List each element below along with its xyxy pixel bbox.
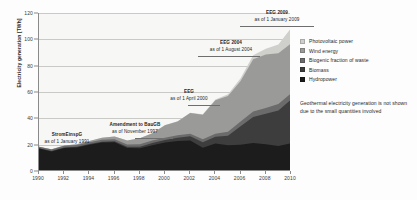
legend-swatch-icon <box>300 67 305 72</box>
annotation-leader-eeg-2000 <box>188 105 220 106</box>
x-tick-mark <box>189 171 190 174</box>
legend-swatch-icon <box>300 58 305 63</box>
legend: Photovoltaic powerWind energyBiogenic fr… <box>300 38 415 86</box>
x-tick-label: 1994 <box>83 175 95 181</box>
legend-label: Biogenic fraction of waste <box>309 57 369 63</box>
x-tick-label: 2006 <box>234 175 246 181</box>
x-tick-mark <box>63 171 64 174</box>
footnote-geothermal: Geothermal electricity generation is not… <box>300 100 416 116</box>
legend-swatch-icon <box>300 77 305 82</box>
legend-item[interactable]: Photovoltaic power <box>300 38 415 44</box>
x-tick-label: 1996 <box>108 175 120 181</box>
x-tick-label: 2008 <box>259 175 271 181</box>
legend-item[interactable]: Biogenic fraction of waste <box>300 57 415 63</box>
legend-swatch-icon <box>300 48 305 53</box>
annotation-eeg-2004: EEG 2004 as of 1 August 2004 <box>195 40 267 54</box>
legend-item[interactable]: Biomass <box>300 67 415 73</box>
legend-item[interactable]: Hydropower <box>300 76 415 82</box>
chart-figure: Electricity generation [TWh] 02040608010… <box>0 0 417 200</box>
legend-label: Biomass <box>309 67 329 73</box>
y-tick-label: 0 <box>30 168 33 174</box>
x-tick-label: 2000 <box>158 175 170 181</box>
annotation-stromeinspg: StromEinspG as of 1 January 1991 <box>34 132 100 146</box>
legend-swatch-icon <box>300 39 305 44</box>
x-tick-mark <box>164 171 165 174</box>
x-tick-mark <box>265 171 266 174</box>
legend-item[interactable]: Wind energy <box>300 48 415 54</box>
annotation-leader-eeg-2009 <box>240 26 314 27</box>
annotation-baugb: Amendment to BauGB as of November 1997 <box>98 122 172 136</box>
y-tick-label: 40 <box>27 115 33 121</box>
x-tick-label: 2004 <box>209 175 221 181</box>
legend-label: Wind energy <box>309 48 338 54</box>
y-tick-label: 100 <box>24 36 33 42</box>
x-tick-mark <box>290 171 291 174</box>
x-tick-label: 1998 <box>133 175 145 181</box>
y-tick-label: 60 <box>27 89 33 95</box>
annotation-leader-baugb <box>135 138 173 139</box>
y-tick-label: 120 <box>24 10 33 16</box>
annotation-leader-eeg-2004 <box>198 56 260 57</box>
x-tick-mark <box>240 171 241 174</box>
x-tick-label: 2002 <box>183 175 195 181</box>
x-tick-label: 2010 <box>284 175 296 181</box>
x-tick-mark <box>38 171 39 174</box>
x-tick-mark <box>139 171 140 174</box>
x-tick-mark <box>114 171 115 174</box>
x-axis: 1990199219941996199820002002200420062008… <box>38 171 290 193</box>
y-tick-label: 20 <box>27 142 33 148</box>
legend-label: Photovoltaic power <box>309 38 353 44</box>
x-tick-label: 1992 <box>57 175 69 181</box>
x-tick-label: 1990 <box>32 175 44 181</box>
x-tick-mark <box>214 171 215 174</box>
y-tick-label: 80 <box>27 63 33 69</box>
x-tick-mark <box>88 171 89 174</box>
y-axis: Electricity generation [TWh] 02040608010… <box>0 0 38 185</box>
annotation-eeg-2009: EEG 2009 as of 1 January 2009 <box>239 10 315 24</box>
y-axis-title: Electricity generation [TWh] <box>16 0 22 108</box>
annotation-eeg-2000: EEG as of 1 April 2000 <box>158 89 220 103</box>
legend-label: Hydropower <box>309 76 337 82</box>
